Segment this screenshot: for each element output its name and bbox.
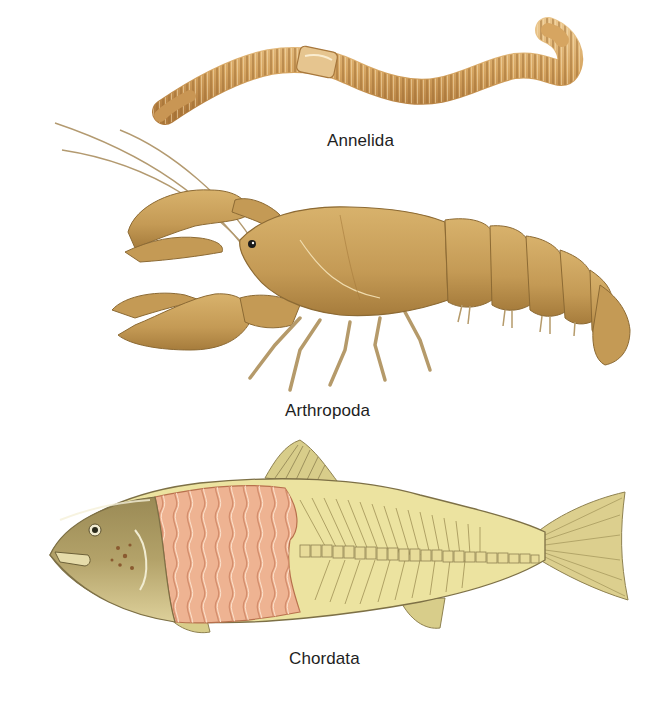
tail-fan bbox=[593, 285, 630, 365]
label-arthropoda: Arthropoda bbox=[285, 401, 370, 421]
earthworm-illustration bbox=[0, 0, 656, 130]
fish-illustration bbox=[0, 430, 656, 650]
crayfish-illustration bbox=[0, 120, 656, 380]
label-chordata: Chordata bbox=[289, 649, 360, 669]
phyla-segmentation-figure: Annelida bbox=[0, 0, 656, 705]
lower-claw bbox=[112, 293, 300, 350]
abdomen-segments bbox=[445, 219, 612, 337]
eye bbox=[248, 240, 256, 248]
caudal-fin bbox=[540, 492, 628, 600]
